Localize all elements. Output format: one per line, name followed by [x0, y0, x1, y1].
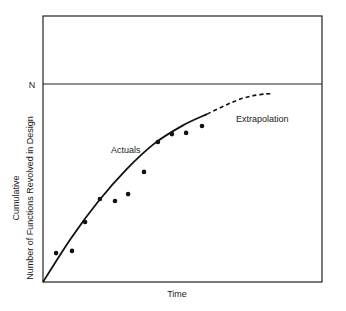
data-point [126, 192, 131, 197]
data-point [113, 199, 118, 204]
extrapolation-annotation: Extrapolation [236, 114, 289, 124]
data-point [54, 251, 59, 256]
data-point [156, 140, 161, 145]
data-point [170, 132, 175, 137]
chart: N Time Cumulative Number of Functions Re… [0, 0, 346, 311]
y-axis-label-line1: Cumulative [11, 175, 21, 220]
actuals-annotation: Actuals [111, 145, 141, 155]
actuals-curve [43, 114, 207, 282]
data-point [70, 249, 75, 254]
data-point [142, 170, 147, 175]
x-axis-label: Time [167, 289, 187, 299]
data-point [184, 131, 189, 136]
actuals-data-points [54, 124, 205, 256]
data-point [98, 197, 103, 202]
data-point [83, 220, 88, 225]
plot-frame [43, 16, 322, 282]
n-label: N [29, 80, 36, 90]
data-point [200, 124, 205, 129]
y-axis-label-line2: Number of Functions Revolved in Design [25, 116, 35, 280]
extrapolation-curve [207, 94, 273, 114]
